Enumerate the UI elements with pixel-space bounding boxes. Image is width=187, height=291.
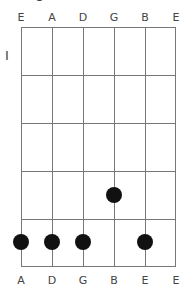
top-label: E [169,12,183,24]
top-label: G [107,12,121,24]
bottom-label: E [138,275,152,287]
bottom-label: D [45,275,59,287]
fret-line [21,75,176,76]
string-line [175,27,176,267]
string-line [145,27,146,267]
fretboard-grid [21,27,176,267]
top-label: A [45,12,59,24]
fret-position-marker: I [5,48,9,63]
string-line [114,27,115,267]
fret-line [21,27,176,28]
top-label: E [14,12,28,24]
finger-dot [75,234,91,250]
finger-dot [44,234,60,250]
fret-line [21,219,176,220]
bottom-label: B [107,275,121,287]
bottom-label: A [14,275,28,287]
finger-dot [106,187,122,203]
string-line [21,27,22,267]
fret-line [21,123,176,124]
fret-line [21,266,176,267]
string-line [52,27,53,267]
finger-dot [137,234,153,250]
top-label: B [138,12,152,24]
cropped-title-fragment [36,0,43,1]
bottom-label: G [76,275,90,287]
top-label: D [76,12,90,24]
bottom-label: E [169,275,183,287]
string-line [83,27,84,267]
finger-dot [13,234,29,250]
fret-line [21,171,176,172]
